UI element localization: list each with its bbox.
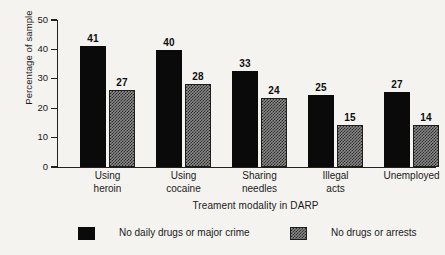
- y-axis-tick-label: 10: [22, 131, 48, 142]
- bar: [308, 95, 334, 167]
- bar: [261, 98, 287, 167]
- bar: [337, 125, 363, 167]
- category-label-line: Unemployed: [364, 170, 445, 183]
- bar-group: 2714: [384, 20, 439, 167]
- bar-value-label: 40: [154, 37, 184, 48]
- bar-value-label: 24: [259, 85, 289, 96]
- plot-area: 41274028332425152714: [58, 20, 436, 167]
- bar-value-label: 27: [382, 79, 412, 90]
- x-axis-title-text: Treament modality in DARP: [192, 200, 318, 211]
- bar-value-label: 41: [78, 33, 108, 44]
- legend-label: No daily drugs or major crime: [119, 227, 250, 238]
- category-label-line: acts: [288, 183, 384, 196]
- checkered-gray-swatch: [290, 227, 307, 240]
- bar: [156, 50, 182, 167]
- bar-value-label: 25: [306, 82, 336, 93]
- bar-value-label: 28: [183, 71, 213, 82]
- y-axis-tick-label: 40: [22, 43, 48, 54]
- chart-legend: No daily drugs or major crimeNo drugs or…: [0, 226, 445, 246]
- bar: [185, 84, 211, 167]
- x-axis-title: Treament modality in DARP: [0, 200, 445, 211]
- bar-group: 3324: [232, 20, 287, 167]
- bar: [80, 46, 106, 167]
- bar-value-label: 15: [335, 112, 365, 123]
- bar-value-label: 14: [411, 112, 441, 123]
- x-axis-category-label: Unemployed: [364, 170, 445, 183]
- bar-value-label: 33: [230, 58, 260, 69]
- bar-group: 4028: [156, 20, 211, 167]
- y-axis-tick-label: 30: [22, 72, 48, 83]
- y-axis-tick-label: 50: [22, 14, 48, 25]
- bar: [109, 90, 135, 167]
- y-axis-tick-label: 20: [22, 102, 48, 113]
- bar-chart-figure: Percentage of sample 01020304050 4127402…: [0, 0, 445, 255]
- y-axis-tick-label: 0: [22, 161, 48, 172]
- bar: [384, 92, 410, 167]
- legend-label: No drugs or arrests: [331, 227, 417, 238]
- bar-group: 4127: [80, 20, 135, 167]
- bar: [232, 71, 258, 167]
- bar-group: 2515: [308, 20, 363, 167]
- solid-black-swatch: [78, 227, 95, 240]
- bar: [413, 125, 439, 167]
- bar-value-label: 27: [107, 77, 137, 88]
